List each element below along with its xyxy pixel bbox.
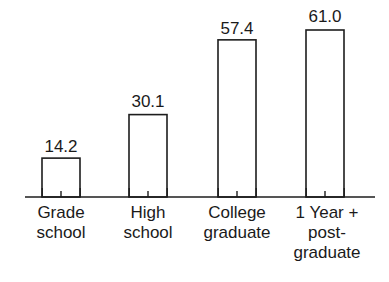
category-label-line: 1 Year + <box>296 203 359 222</box>
bar-college-graduate[interactable] <box>218 40 256 197</box>
category-labels-group: Grade school High school College graduat… <box>36 203 360 262</box>
bar-post-graduate[interactable] <box>306 30 344 197</box>
category-label-high-school: High school <box>123 203 172 242</box>
category-label-grade-school: Grade school <box>36 203 85 242</box>
category-label-college-graduate: College graduate <box>203 203 270 242</box>
bar-high-school[interactable] <box>129 115 167 197</box>
category-label-post-graduate: 1 Year + post- graduate <box>293 203 360 262</box>
value-labels-group: 14.2 30.1 57.4 61.0 <box>44 7 341 156</box>
category-label-line: school <box>36 223 85 242</box>
category-label-line: High <box>131 203 166 222</box>
category-label-line: graduate <box>293 243 360 262</box>
x-axis-ticks <box>42 188 344 197</box>
category-label-line: graduate <box>203 223 270 242</box>
value-label-grade-school: 14.2 <box>44 137 77 156</box>
value-label-high-school: 30.1 <box>131 92 164 111</box>
value-label-post-graduate: 61.0 <box>308 7 341 26</box>
bar-chart-figure: 14.2 30.1 57.4 61.0 Grade school High sc… <box>0 0 389 282</box>
category-label-line: College <box>208 203 266 222</box>
category-label-line: school <box>123 223 172 242</box>
category-label-line: post- <box>308 223 346 242</box>
bars-group <box>42 30 344 197</box>
chart-canvas: 14.2 30.1 57.4 61.0 Grade school High sc… <box>0 0 389 282</box>
value-label-college-graduate: 57.4 <box>220 19 253 38</box>
category-label-line: Grade <box>37 203 84 222</box>
